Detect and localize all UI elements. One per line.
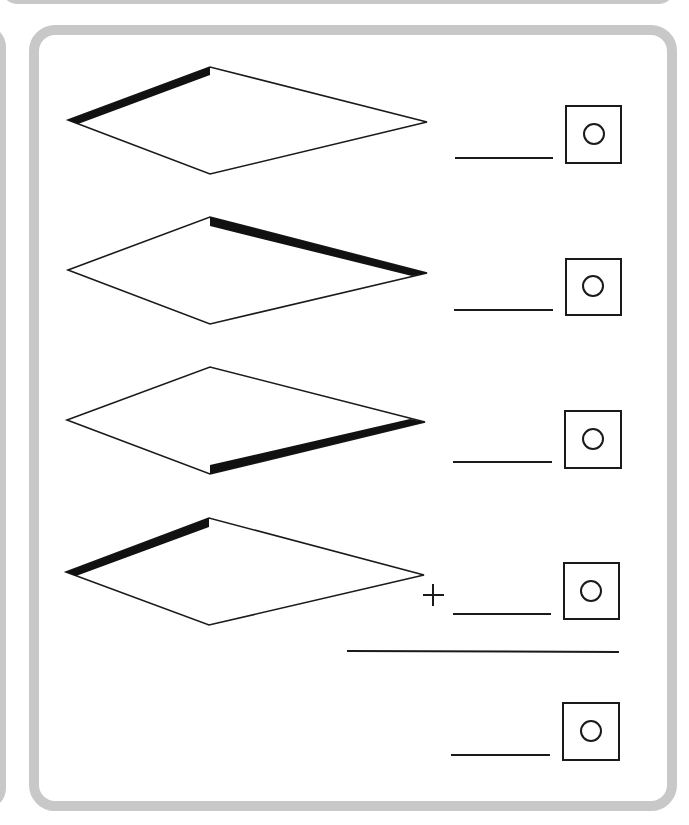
kite-3 (67, 367, 425, 474)
kite-4 (66, 518, 424, 625)
unit-box-2 (566, 259, 621, 315)
unit-box-3 (565, 411, 621, 468)
worksheet-art (0, 0, 689, 825)
unit-box-4 (564, 563, 619, 619)
kite-1 (68, 67, 427, 174)
unit-box-1 (566, 106, 621, 163)
plus-icon (423, 584, 444, 606)
unit-box-total (563, 703, 619, 760)
kite-2 (68, 217, 427, 324)
sum-divider-line (347, 651, 619, 652)
